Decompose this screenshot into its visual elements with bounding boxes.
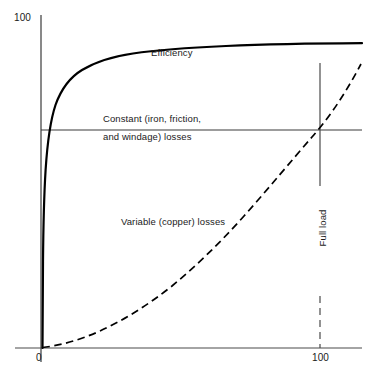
efficiency-losses-chart: 100 0 100 Efficiency Constant (iron, fri… [0, 0, 384, 388]
variable-loss-curve-label: Variable (copper) losses [121, 216, 225, 228]
constant-loss-label-line-1: Constant (iron, friction, [103, 113, 201, 125]
efficiency-curve-label: Efficiency [151, 47, 192, 59]
x-axis-full-load-tick-label: 100 [312, 352, 329, 364]
constant-loss-label-line-2: and windage) losses [103, 131, 192, 143]
x-axis-zero-tick-label: 0 [36, 352, 42, 364]
full-load-label: Full load [317, 205, 329, 251]
y-axis-max-tick-label: 100 [14, 12, 31, 24]
